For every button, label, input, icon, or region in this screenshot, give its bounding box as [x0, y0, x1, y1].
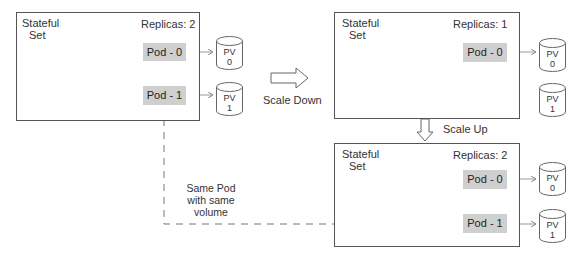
statefulset-label-line1: Stateful [22, 17, 59, 29]
pv-label: PV [216, 47, 243, 57]
scale-down-label: Scale Down [263, 94, 322, 106]
statefulset-label: Stateful Set [22, 17, 59, 41]
pv-1-cylinder-unattached: PV1 [539, 83, 566, 117]
pv-index: 0 [539, 59, 566, 69]
pv-label: PV [539, 220, 566, 230]
pv-label: PV [539, 49, 566, 59]
statefulset-scaled-down-box: Stateful Set Replicas: 1 [334, 12, 520, 119]
pod-1: Pod - 1 [143, 86, 186, 105]
pv-label: PV [539, 94, 566, 104]
replicas-count: Replicas: 2 [141, 18, 195, 30]
pod-0: Pod - 0 [463, 43, 507, 62]
statefulset-label-line1: Stateful [342, 148, 379, 160]
pv-0-cylinder: PV0 [539, 38, 566, 72]
pv-0-cylinder: PV0 [216, 36, 243, 70]
pv-index: 0 [539, 183, 566, 193]
annotation-line1: Same Pod [182, 182, 240, 194]
pv-0-cylinder: PV0 [539, 162, 566, 196]
statefulset-label: Stateful Set [342, 17, 379, 41]
pv-index: 0 [216, 57, 243, 67]
statefulset-label-line2: Set [342, 29, 379, 41]
pv-label: PV [539, 173, 566, 183]
annotation-line2: with same [182, 194, 240, 206]
pod-0: Pod - 0 [143, 43, 186, 61]
pod-0: Pod - 0 [463, 170, 507, 189]
annotation-line3: volume [182, 206, 240, 218]
same-pod-annotation: Same Pod with same volume [182, 182, 240, 218]
statefulset-label-line1: Stateful [342, 17, 379, 29]
pv-index: 1 [216, 103, 243, 113]
replicas-count: Replicas: 2 [453, 149, 507, 161]
pod-1: Pod - 1 [463, 214, 507, 233]
statefulset-label-line2: Set [22, 29, 59, 41]
pv-1-cylinder: PV1 [216, 82, 243, 116]
pv-index: 1 [539, 104, 566, 114]
statefulset-label-line2: Set [342, 160, 379, 172]
statefulset-label: Stateful Set [342, 148, 379, 172]
replicas-count: Replicas: 1 [453, 18, 507, 30]
pv-index: 1 [539, 230, 566, 240]
scale-up-label: Scale Up [443, 123, 488, 135]
pv-1-cylinder: PV1 [539, 209, 566, 243]
pv-label: PV [216, 93, 243, 103]
